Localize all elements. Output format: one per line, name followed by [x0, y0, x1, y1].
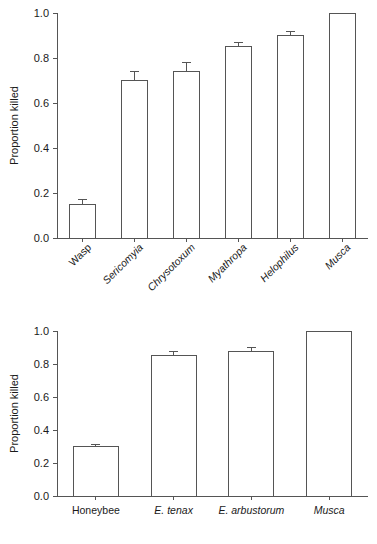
chart-svg-bottom: 0.00.20.40.60.81.0Proportion killedHoney…: [0, 300, 377, 544]
figure-root: 0.00.20.40.60.81.0Proportion killedWaspS…: [0, 0, 377, 544]
y-tick-label: 0.8: [34, 358, 49, 370]
y-tick-label: 0.4: [34, 424, 49, 436]
x-axis-category-label: Honeybee: [72, 504, 120, 516]
bar: [73, 447, 118, 497]
y-axis-title: Proportion killed: [8, 374, 20, 453]
bar: [277, 36, 303, 239]
x-axis-category-label: Myathropa: [205, 241, 249, 285]
x-axis-category-label: Sericomyia: [100, 241, 145, 286]
chart-panel-bottom: 0.00.20.40.60.81.0Proportion killedHoney…: [0, 300, 377, 544]
x-axis-category-label: E. tenax: [154, 504, 193, 516]
bar: [174, 72, 200, 239]
x-axis-category-label: Helophilus: [258, 240, 302, 284]
bar: [225, 47, 251, 238]
y-tick-label: 0.8: [34, 52, 49, 64]
y-tick-label: 0.0: [34, 232, 49, 244]
bar: [329, 13, 355, 238]
bar: [122, 81, 148, 239]
bar: [70, 204, 96, 238]
y-tick-label: 0.0: [34, 490, 49, 502]
chart-svg-top: 0.00.20.40.60.81.0Proportion killedWaspS…: [0, 0, 377, 300]
x-axis-category-label: Musca: [314, 504, 345, 516]
x-axis-category-label: E. arbustorum: [218, 504, 284, 516]
x-axis-category-label: Chrysotoxum: [145, 241, 197, 293]
y-tick-label: 0.4: [34, 142, 49, 154]
y-tick-label: 0.2: [34, 187, 49, 199]
y-axis-title: Proportion killed: [8, 86, 20, 165]
y-tick-label: 0.6: [34, 391, 49, 403]
bar: [229, 352, 274, 496]
x-axis-category-label: Musca: [322, 241, 352, 271]
y-tick-label: 0.6: [34, 97, 49, 109]
bar: [307, 331, 352, 496]
x-axis-category-label: Wasp: [66, 241, 93, 268]
y-tick-label: 0.2: [34, 457, 49, 469]
chart-panel-top: 0.00.20.40.60.81.0Proportion killedWaspS…: [0, 0, 377, 300]
bar: [151, 356, 196, 496]
y-tick-label: 1.0: [34, 325, 49, 337]
y-tick-label: 1.0: [34, 7, 49, 19]
